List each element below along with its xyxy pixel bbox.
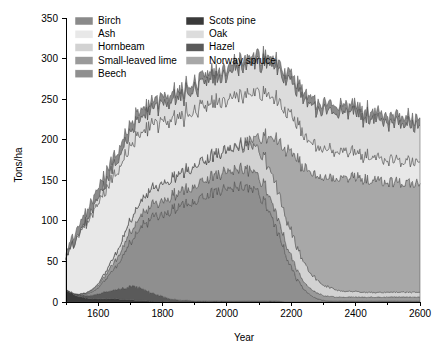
legend-label-scots-pine: Scots pine — [209, 15, 256, 26]
y-tick-label: 100 — [41, 215, 58, 226]
legend-label-oak: Oak — [209, 28, 228, 39]
x-axis-title: Year — [234, 332, 255, 343]
plot-series-group — [66, 46, 420, 302]
legend-swatch-beech — [75, 70, 93, 78]
legend-swatch-small-leaved-lime — [75, 57, 93, 65]
y-tick-label: 50 — [47, 256, 59, 267]
stacked-area-chart-figure: 160018002000220024002600 050100150200250… — [0, 0, 438, 348]
y-tick-label: 0 — [52, 297, 58, 308]
y-tick-label: 300 — [41, 53, 58, 64]
y-tick-label: 150 — [41, 175, 58, 186]
legend-swatch-birch — [75, 17, 93, 25]
y-tick-label: 200 — [41, 134, 58, 145]
x-tick-label: 2400 — [345, 308, 368, 319]
x-tick-label: 2200 — [280, 308, 303, 319]
y-tick-label: 350 — [41, 13, 58, 24]
legend-label-ash: Ash — [98, 28, 115, 39]
legend-label-hazel: Hazel — [209, 41, 235, 52]
legend-label-hornbeam: Hornbeam — [98, 41, 145, 52]
legend-swatch-norway-spruce — [186, 57, 204, 65]
legend-swatch-ash — [75, 30, 93, 38]
y-axis-title: Tons/ha — [13, 147, 24, 182]
chart-canvas: 160018002000220024002600 050100150200250… — [0, 0, 438, 348]
x-tick-label: 2000 — [216, 308, 239, 319]
y-axis-tick-labels: 050100150200250300350 — [41, 13, 58, 308]
x-tick-label: 2600 — [409, 308, 432, 319]
legend-label-norway-spruce: Norway spruce — [209, 55, 276, 66]
x-axis-tick-labels: 160018002000220024002600 — [87, 308, 432, 319]
legend-label-birch: Birch — [98, 15, 121, 26]
legend-swatch-hornbeam — [75, 43, 93, 51]
x-tick-label: 1600 — [87, 308, 110, 319]
legend-swatch-hazel — [186, 43, 204, 51]
legend-swatch-scots-pine — [186, 17, 204, 25]
legend-swatch-oak — [186, 30, 204, 38]
legend-label-small-leaved-lime: Small-leaved lime — [98, 55, 177, 66]
x-tick-label: 1800 — [151, 308, 174, 319]
legend-label-beech: Beech — [98, 68, 126, 79]
y-tick-label: 250 — [41, 94, 58, 105]
